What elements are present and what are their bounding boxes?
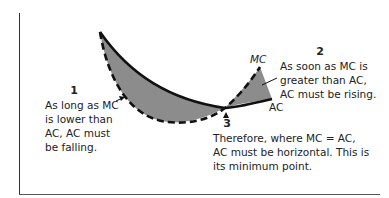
note-2: 2 As soon as MC is greater than AC, AC m… bbox=[280, 45, 389, 101]
note-1-line: AC, AC must bbox=[45, 126, 135, 140]
note-3: 3 Therefore, where MC = AC, AC must be h… bbox=[213, 117, 388, 173]
note-3-line: its minimum point. bbox=[213, 159, 388, 173]
note-2-line: AC must be rising. bbox=[280, 87, 389, 101]
note-1-number: 1 bbox=[45, 84, 103, 98]
note-1-line: be falling. bbox=[45, 140, 135, 154]
note-3-number: 3 bbox=[213, 117, 241, 131]
note-3-line: Therefore, where MC = AC, bbox=[213, 131, 388, 145]
note-1: 1 As long as MC is lower than AC, AC mus… bbox=[45, 84, 135, 154]
note-3-line: AC must be horizontal. This is bbox=[213, 145, 388, 159]
note-1-line: As long as MC bbox=[45, 98, 135, 112]
mc-label: MC bbox=[250, 53, 266, 65]
note-2-line: As soon as MC is bbox=[280, 59, 389, 73]
note-2-number: 2 bbox=[280, 45, 360, 59]
note-1-line: is lower than bbox=[45, 112, 135, 126]
note-2-line: greater than AC, bbox=[280, 73, 389, 87]
ac-label: AC bbox=[269, 101, 283, 113]
